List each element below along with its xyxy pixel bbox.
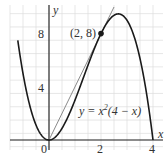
y-tick-4: 4 — [38, 81, 44, 95]
x-tick-4: 4 — [149, 142, 155, 156]
equation-label: y = x2(4 − x) — [78, 103, 141, 118]
x-tick-2: 2 — [97, 142, 103, 156]
origin-label: 0 — [41, 142, 47, 156]
y-axis-label: y — [52, 3, 59, 17]
x-axis-label: x — [157, 127, 164, 141]
y-tick-8: 8 — [38, 27, 44, 41]
point-marker — [98, 31, 104, 37]
point-label: (2, 8) — [70, 26, 96, 40]
chart: 0 2 4 4 8 y x (2, 8) y = x2(4 − x) — [0, 0, 168, 158]
